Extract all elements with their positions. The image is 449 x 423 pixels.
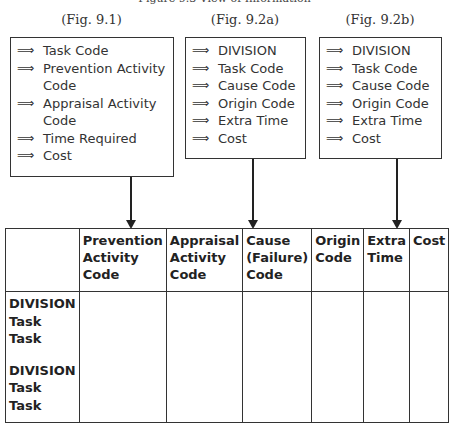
fig-9-2b-box: ⟹DIVISION ⟹Task Code ⟹Cause Code ⟹Origin… bbox=[319, 37, 442, 159]
table-cell bbox=[364, 292, 410, 423]
list-item: Extra Time bbox=[352, 112, 422, 130]
fig-label-9-2b: (Fig. 9.2b) bbox=[319, 12, 441, 27]
connector-line-2 bbox=[252, 159, 254, 221]
double-arrow-icon: ⟹ bbox=[326, 77, 352, 95]
fig-label-9-1: (Fig. 9.1) bbox=[10, 12, 173, 27]
list-item: Cost bbox=[43, 147, 72, 165]
fig-9-1-box: ⟹Task Code ⟹Prevention Activity Code ⟹Ap… bbox=[10, 37, 174, 177]
table-cell bbox=[312, 292, 364, 423]
row-gap bbox=[9, 348, 76, 362]
double-arrow-icon: ⟹ bbox=[17, 42, 43, 60]
fig-label-9-2a: (Fig. 9.2a) bbox=[185, 12, 305, 27]
double-arrow-icon: ⟹ bbox=[192, 60, 218, 78]
row-label-cell: DIVISION Task Task DIVISION Task Task bbox=[6, 292, 80, 423]
header-cell: Cause (Failure) Code bbox=[243, 229, 312, 292]
double-arrow-icon: ⟹ bbox=[192, 95, 218, 113]
list-item: DIVISION bbox=[218, 42, 277, 60]
table-cell bbox=[409, 292, 448, 423]
list-item: Cause Code bbox=[218, 77, 295, 95]
header-cell: Appraisal Activity Code bbox=[166, 229, 242, 292]
double-arrow-icon: ⟹ bbox=[326, 95, 352, 113]
table-cell bbox=[79, 292, 166, 423]
list-item: Task Code bbox=[352, 60, 417, 78]
list-item: Extra Time bbox=[218, 112, 288, 130]
list-item: Origin Code bbox=[352, 95, 429, 113]
header-cell: Prevention Activity Code bbox=[79, 229, 166, 292]
header-cell: Cost bbox=[409, 229, 448, 292]
double-arrow-icon: ⟹ bbox=[326, 42, 352, 60]
double-arrow-icon: ⟹ bbox=[326, 112, 352, 130]
double-arrow-icon: ⟹ bbox=[326, 60, 352, 78]
list-item: Cause Code bbox=[352, 77, 429, 95]
row-label: Task bbox=[9, 379, 76, 397]
table-cell bbox=[166, 292, 242, 423]
list-item: Appraisal Activity Code bbox=[43, 95, 169, 130]
double-arrow-icon: ⟹ bbox=[192, 130, 218, 148]
double-arrow-icon: ⟹ bbox=[326, 130, 352, 148]
connector-line-3 bbox=[396, 159, 398, 221]
header-cell: Extra Time bbox=[364, 229, 410, 292]
table-row: DIVISION Task Task DIVISION Task Task bbox=[6, 292, 449, 423]
list-item: Prevention Activity Code bbox=[43, 60, 169, 95]
double-arrow-icon: ⟹ bbox=[17, 60, 43, 95]
row-label: Task bbox=[9, 397, 76, 415]
list-item: Task Code bbox=[43, 42, 108, 60]
double-arrow-icon: ⟹ bbox=[192, 77, 218, 95]
list-item: Cost bbox=[218, 130, 247, 148]
information-table: Prevention Activity Code Appraisal Activ… bbox=[5, 228, 449, 423]
connector-line-1 bbox=[130, 177, 132, 221]
header-row: Prevention Activity Code Appraisal Activ… bbox=[6, 229, 449, 292]
list-item: Origin Code bbox=[218, 95, 295, 113]
double-arrow-icon: ⟹ bbox=[17, 95, 43, 130]
fig-9-2a-box: ⟹DIVISION ⟹Task Code ⟹Cause Code ⟹Origin… bbox=[185, 37, 306, 159]
row-label: DIVISION bbox=[9, 362, 76, 380]
row-label: Task bbox=[9, 313, 76, 331]
double-arrow-icon: ⟹ bbox=[17, 147, 43, 165]
list-item: Time Required bbox=[43, 130, 137, 148]
list-item: DIVISION bbox=[352, 42, 411, 60]
table-cell bbox=[243, 292, 312, 423]
double-arrow-icon: ⟹ bbox=[192, 112, 218, 130]
double-arrow-icon: ⟹ bbox=[17, 130, 43, 148]
row-label: DIVISION bbox=[9, 295, 76, 313]
row-label: Task bbox=[9, 330, 76, 348]
figure-title: Figure 9.3 View of Information bbox=[0, 0, 449, 5]
list-item: Cost bbox=[352, 130, 381, 148]
list-item: Task Code bbox=[218, 60, 283, 78]
header-cell bbox=[6, 229, 80, 292]
header-cell: Origin Code bbox=[312, 229, 364, 292]
double-arrow-icon: ⟹ bbox=[192, 42, 218, 60]
